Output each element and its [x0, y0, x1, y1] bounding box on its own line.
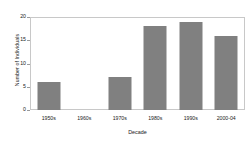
bar-slot: [67, 18, 103, 110]
bar: [179, 22, 202, 110]
y-axis-tick-label: 10: [14, 61, 26, 66]
y-axis-tick-labels: 05101520: [14, 0, 26, 145]
bar-slot: [31, 18, 67, 110]
bar: [108, 77, 131, 110]
y-axis-tick-label: 0: [14, 107, 26, 112]
x-axis-title: Decade: [31, 128, 244, 136]
y-axis-tick-mark: [27, 110, 30, 111]
y-axis-tick-label: 15: [14, 37, 26, 42]
bar-slot: [138, 18, 174, 110]
bar: [37, 82, 60, 110]
bar-slot: [102, 18, 138, 110]
bar-series: [31, 18, 244, 110]
bar: [215, 36, 238, 110]
bar-slot: [209, 18, 245, 110]
x-axis-tick-label: 1950s: [31, 114, 67, 122]
y-axis-tick-label: 20: [14, 14, 26, 19]
x-axis-tick-label: 1980s: [138, 114, 174, 122]
y-axis-tick-label: 5: [14, 84, 26, 89]
bar-slot: [173, 18, 209, 110]
x-axis-tick-label: 2000-04: [209, 114, 245, 122]
x-axis-tick-label: 1960s: [67, 114, 103, 122]
x-axis-tick-labels: 1950s1960s1970s1980s1990s2000-04: [31, 114, 244, 124]
bar: [144, 26, 167, 110]
x-axis-tick-label: 1990s: [173, 114, 209, 122]
bar-chart: Number of Individuals 05101520 1950s1960…: [0, 0, 251, 145]
x-axis-tick-label: 1970s: [102, 114, 138, 122]
